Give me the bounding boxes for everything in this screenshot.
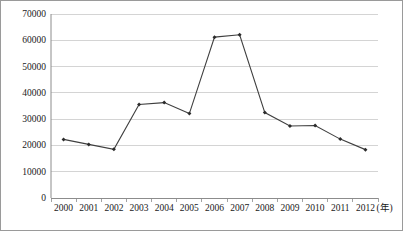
y-axis-tick-label-text: 10000 xyxy=(2,167,46,177)
y-axis-tick-label-text: 0 xyxy=(2,193,46,203)
y-axis-tick-label-text: 50000 xyxy=(2,62,46,72)
data-point-marker xyxy=(288,124,292,128)
y-axis-tick-label-text: 20000 xyxy=(2,140,46,150)
x-axis-tick-label: 2004 xyxy=(155,203,174,214)
data-point-marker xyxy=(338,137,342,141)
data-point-marker xyxy=(187,112,191,116)
chart-plot-area xyxy=(0,0,404,232)
y-axis-tick-label-text: 60000 xyxy=(2,35,46,45)
x-axis-tick-label: 2007 xyxy=(230,203,249,214)
y-axis-tick-label-text: 70000 xyxy=(2,9,46,19)
data-point-markers-group xyxy=(62,33,368,152)
data-point-marker xyxy=(162,101,166,105)
x-axis-tick-label: 2009 xyxy=(280,203,299,214)
data-point-marker xyxy=(238,33,242,37)
x-axis-tick-label: 2002 xyxy=(104,203,123,214)
x-tick-marks-group xyxy=(51,198,378,202)
line-chart: 010000200003000040000500006000070000 200… xyxy=(0,0,404,232)
gridlines-group xyxy=(51,14,378,198)
data-point-marker xyxy=(62,137,66,141)
x-axis-tick-label: 2010 xyxy=(306,203,325,214)
data-point-marker xyxy=(263,111,267,115)
x-axis-tick-label: 2005 xyxy=(180,203,199,214)
x-axis-tick-label: 2003 xyxy=(130,203,149,214)
x-axis-tick-label: 2012 xyxy=(356,203,375,214)
y-axis-tick-label-text: 40000 xyxy=(2,88,46,98)
data-point-marker xyxy=(363,148,367,152)
x-axis-unit-label: (年) xyxy=(376,203,392,214)
x-axis-tick-label: 2006 xyxy=(205,203,224,214)
data-point-marker xyxy=(213,35,217,39)
x-axis-tick-label: 2001 xyxy=(79,203,98,214)
y-axis-tick-label-text: 30000 xyxy=(2,114,46,124)
data-point-marker xyxy=(313,123,317,127)
x-axis-tick-label: 2011 xyxy=(331,203,350,214)
x-axis-tick-label: 2008 xyxy=(255,203,274,214)
x-axis-tick-label: 2000 xyxy=(54,203,73,214)
data-series-line xyxy=(64,35,366,150)
